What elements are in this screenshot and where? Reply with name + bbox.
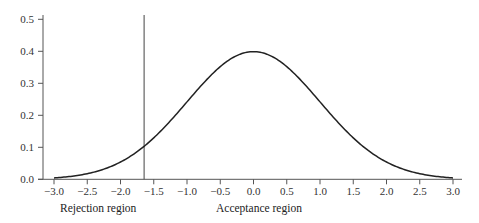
density-curve bbox=[54, 52, 453, 178]
y-tick-label: 0.4 bbox=[20, 45, 34, 57]
y-tick-label: 0.1 bbox=[20, 141, 34, 153]
x-tick-label: −3.0 bbox=[44, 185, 64, 197]
normal-distribution-chart: 0.00.10.20.30.40.5 −3.0−2.5−2.0−1.5−1.0−… bbox=[0, 0, 479, 223]
x-tick-label: 0.5 bbox=[280, 185, 294, 197]
x-tick-label: −2.0 bbox=[111, 185, 131, 197]
y-tick-label: 0.2 bbox=[20, 109, 34, 121]
y-tick-label: 0.5 bbox=[20, 13, 34, 25]
x-tick-label: −2.5 bbox=[77, 185, 97, 197]
y-tick-label: 0.0 bbox=[20, 173, 34, 185]
x-tick-label: 1.5 bbox=[346, 185, 360, 197]
x-tick-label: 2.0 bbox=[380, 185, 394, 197]
x-tick-label: −1.5 bbox=[144, 185, 164, 197]
acceptance-region-label: Acceptance region bbox=[216, 202, 302, 215]
y-tick-label: 0.3 bbox=[20, 77, 34, 89]
rejection-region-label: Rejection region bbox=[60, 202, 137, 215]
x-axis: −3.0−2.5−2.0−1.5−1.0−0.50.00.51.01.52.02… bbox=[38, 179, 462, 197]
x-tick-label: −1.0 bbox=[177, 185, 197, 197]
x-tick-label: −0.5 bbox=[210, 185, 230, 197]
x-tick-label: 0.0 bbox=[247, 185, 261, 197]
x-tick-label: 1.0 bbox=[313, 185, 327, 197]
y-axis: 0.00.10.20.30.40.5 bbox=[20, 13, 43, 185]
x-tick-label: 2.5 bbox=[413, 185, 427, 197]
x-tick-label: 3.0 bbox=[446, 185, 460, 197]
